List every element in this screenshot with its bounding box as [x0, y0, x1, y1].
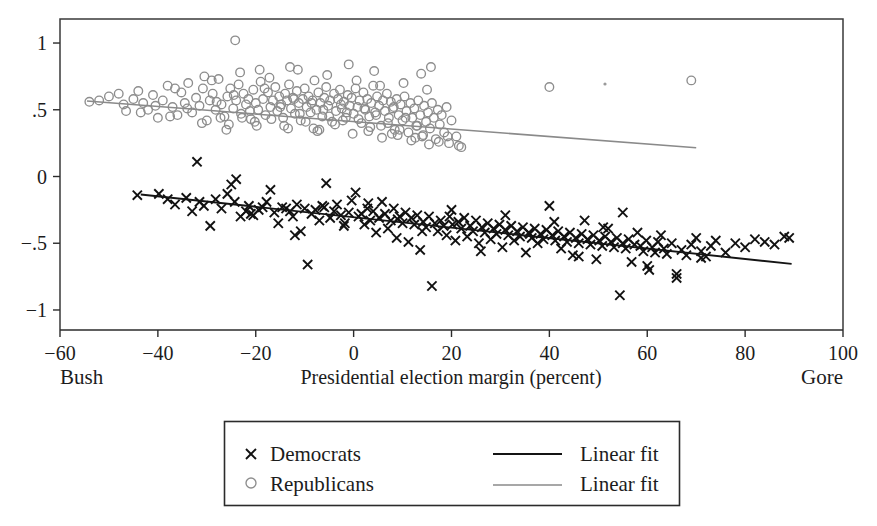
x-tick-label: 100: [828, 342, 858, 364]
x-tick-label: −40: [142, 342, 173, 364]
x-tick-label: −20: [240, 342, 271, 364]
x-tick-label: −60: [44, 342, 75, 364]
x-axis-title: Presidential election margin (percent): [300, 366, 601, 389]
axis-end-label-bush: Bush: [60, 365, 104, 389]
y-tick-label: .5: [32, 99, 47, 121]
legend-label-democrats: Democrats: [270, 442, 361, 466]
legend-label-republicans: Republicans: [270, 472, 374, 496]
y-tick-label: 1: [37, 32, 47, 54]
axis-end-label-gore: Gore: [801, 365, 843, 389]
x-tick-label: 80: [735, 342, 755, 364]
y-tick-label: −.5: [21, 232, 47, 254]
chart-svg: −1−.50.51 −60−40−20020406080100 Presiden…: [0, 0, 877, 526]
chart-legend: Democrats Republicans Linear fit Linear …: [225, 422, 680, 506]
x-tick-label: 0: [349, 342, 359, 364]
legend-label-linear-fit-democrats: Linear fit: [580, 442, 659, 466]
y-tick-label: −1: [26, 299, 47, 321]
y-tick-label: 0: [37, 166, 47, 188]
x-tick-label: 40: [539, 342, 559, 364]
stray-speck: [603, 82, 606, 85]
x-tick-label: 20: [442, 342, 462, 364]
legend-label-linear-fit-republicans: Linear fit: [580, 472, 659, 496]
x-tick-label: 60: [637, 342, 657, 364]
scatter-plot-figure: −1−.50.51 −60−40−20020406080100 Presiden…: [0, 0, 877, 526]
x-axis-tick-labels: −60−40−20020406080100: [44, 342, 858, 364]
